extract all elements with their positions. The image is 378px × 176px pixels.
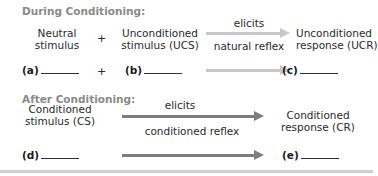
ucr-line-1: Unconditioned	[296, 27, 376, 39]
cr-line-2: response (CR)	[276, 121, 360, 133]
ucs-line-2: stimulus (UCS)	[120, 39, 200, 51]
blank-e[interactable]: (e)	[282, 149, 339, 161]
plus-sign: +	[97, 32, 106, 45]
blank-a[interactable]: (a)	[22, 64, 79, 76]
cs-line-2: stimulus (CS)	[22, 115, 98, 127]
blank-b-label: (b)	[125, 64, 142, 76]
cs-label: Conditioned stimulus (CS)	[22, 103, 98, 127]
blank-b[interactable]: (b)	[125, 64, 182, 76]
arrow-head-icon	[254, 150, 264, 160]
blank-a-label: (a)	[22, 64, 39, 76]
natural-reflex-arrow	[206, 32, 290, 35]
blank-c[interactable]: (c)	[282, 64, 338, 76]
conditioned-reflex-arrow	[122, 115, 264, 118]
plus-sign-2: +	[97, 65, 106, 78]
arrow-head-icon	[280, 28, 290, 38]
blank-e-line[interactable]	[301, 158, 339, 159]
neutral-stimulus-label: Neutral stimulus	[28, 27, 86, 51]
cr-line-1: Conditioned	[276, 109, 360, 121]
blank-a-line[interactable]	[41, 73, 79, 74]
conditioned-reflex-label: conditioned reflex	[130, 125, 254, 137]
blank-e-label: (e)	[282, 149, 299, 161]
ucs-label: Unconditioned stimulus (UCS)	[120, 27, 200, 51]
neutral-line-2: stimulus	[28, 39, 86, 51]
blank-d[interactable]: (d)	[22, 149, 79, 161]
cr-arrow-elicits-label: elicits	[150, 99, 210, 111]
blank-d-label: (d)	[22, 149, 39, 161]
during-blank-arrow	[206, 69, 290, 72]
neutral-line-1: Neutral	[28, 27, 86, 39]
arrow-head-icon	[254, 111, 264, 121]
blank-b-line[interactable]	[144, 73, 182, 74]
arrow-elicits-label: elicits	[207, 17, 291, 29]
blank-c-label: (c)	[282, 64, 298, 76]
cr-label: Conditioned response (CR)	[276, 109, 360, 133]
natural-reflex-label: natural reflex	[203, 40, 295, 52]
ucr-label: Unconditioned response (UCR)	[296, 27, 376, 51]
ucr-line-2: response (UCR)	[296, 39, 376, 51]
blank-c-line[interactable]	[300, 73, 338, 74]
blank-d-line[interactable]	[41, 158, 79, 159]
bottom-divider	[0, 170, 373, 173]
cs-line-1: Conditioned	[22, 103, 98, 115]
during-conditioning-title: During Conditioning:	[22, 5, 145, 17]
ucs-line-1: Unconditioned	[120, 27, 200, 39]
after-blank-arrow	[122, 154, 264, 157]
